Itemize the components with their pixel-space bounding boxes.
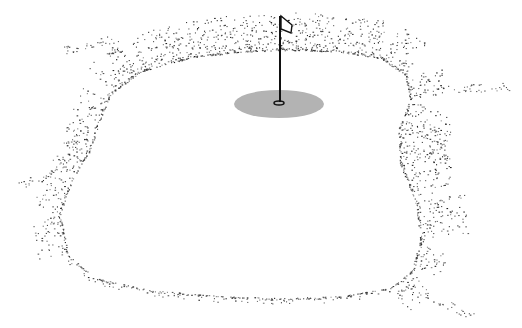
background xyxy=(0,0,522,328)
golf-green-illustration xyxy=(0,0,522,328)
